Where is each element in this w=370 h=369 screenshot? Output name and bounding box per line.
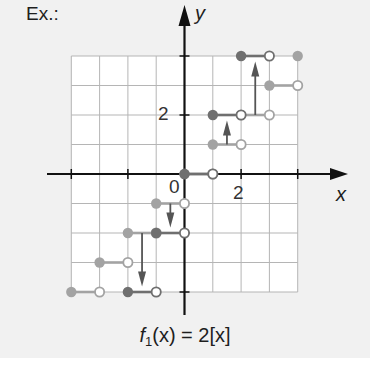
caption-rest: (x) = 2[x] [152, 324, 230, 346]
dark-closed-point [236, 51, 246, 61]
dark-open-point [265, 51, 274, 60]
x-tick-label-2: 2 [233, 182, 244, 204]
light-open-point [180, 199, 189, 208]
dark-closed-point [123, 287, 133, 297]
y-axis-arrowhead-icon [179, 5, 191, 26]
function-caption: f1(x) = 2[x] [0, 324, 370, 349]
dark-open-point [237, 110, 246, 119]
dark-closed-point [151, 228, 161, 238]
light-closed-point [264, 80, 274, 90]
light-open-point [123, 258, 132, 267]
light-closed-point [293, 51, 303, 61]
light-closed-point [123, 228, 133, 238]
x-axis-label: x [336, 183, 346, 206]
light-closed-point [208, 139, 218, 149]
dark-closed-point [208, 110, 218, 120]
light-closed-point [66, 287, 76, 297]
x-axis-arrowhead-icon [330, 168, 348, 180]
origin-label: 0 [169, 176, 180, 198]
light-open-point [237, 140, 246, 149]
dark-open-point [208, 169, 217, 178]
light-open-point [265, 110, 274, 119]
light-open-point [293, 81, 302, 90]
light-closed-point [94, 257, 104, 267]
light-open-point [95, 287, 104, 296]
step-function-graph [0, 0, 370, 369]
light-closed-point [151, 198, 161, 208]
dark-open-point [180, 228, 189, 237]
dark-closed-point [179, 169, 189, 179]
y-tick-label-2: 2 [158, 103, 169, 125]
dark-open-point [152, 287, 161, 296]
y-axis-label: y [195, 2, 205, 25]
